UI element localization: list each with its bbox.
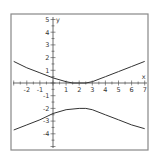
y-tick-label: 5 (45, 16, 49, 24)
y-tick-label: 4 (45, 29, 49, 37)
x-tick-label: 1 (64, 86, 68, 94)
x-tick-label: 4 (103, 86, 107, 94)
y-tick-label: -4 (43, 130, 49, 138)
plot-frame (11, 14, 148, 150)
y-tick-label: -1 (43, 92, 49, 100)
x-axis-label: x (142, 73, 146, 81)
y-tick-label: 3 (45, 41, 49, 49)
x-tick-label: 7 (143, 86, 147, 94)
y-tick-label: -2 (43, 105, 49, 113)
x-tick-label: 5 (116, 86, 120, 94)
x-tick-label: 2 (77, 86, 81, 94)
hyperbola-plot: -2-1123456754321-1-2-3-4yx (0, 0, 160, 159)
x-tick-label: 3 (90, 86, 94, 94)
y-tick-label: 1 (45, 67, 49, 75)
y-tick-label: 2 (45, 54, 49, 62)
x-tick-label: 6 (130, 86, 134, 94)
y-axis-label: y (56, 16, 60, 24)
y-tick-label: -3 (43, 117, 49, 125)
x-tick-label: -2 (24, 86, 30, 94)
